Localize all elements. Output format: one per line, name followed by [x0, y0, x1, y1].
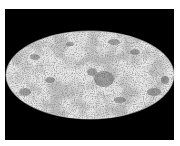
mollweide-ellipse [6, 31, 174, 119]
sky-map [0, 0, 180, 146]
